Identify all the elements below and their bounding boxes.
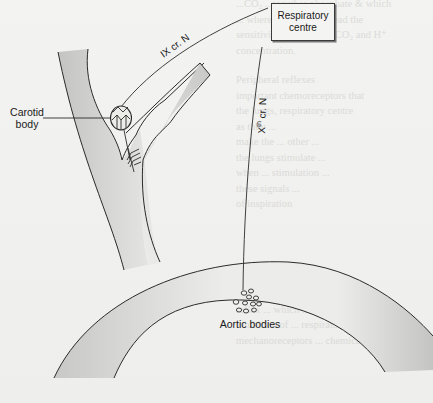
carotid-body-label: Carotid body	[5, 106, 49, 130]
vagus-nerve-label: Xth cr. N	[252, 90, 269, 141]
vagus-nerve-superscript: th	[255, 121, 262, 127]
vagus-nerve-line	[243, 47, 262, 290]
respiratory-centre-box: Respiratory centre	[271, 3, 335, 41]
respiratory-centre-label: Respiratory centre	[272, 10, 334, 34]
vagus-nerve-suffix: cr. N	[257, 98, 269, 119]
vagus-nerve-numeral: X	[256, 127, 267, 134]
carotid-body-icon	[111, 106, 132, 130]
aortic-bodies-label: Aortic bodies	[210, 318, 290, 330]
chemoreceptor-diagram	[0, 0, 433, 403]
